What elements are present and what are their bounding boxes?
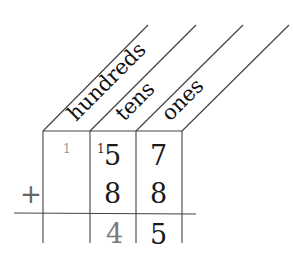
carry-hundreds: 1 bbox=[63, 142, 71, 156]
result-tens: 4 bbox=[106, 218, 123, 249]
diagonal-line-4 bbox=[182, 25, 289, 131]
sum-rule bbox=[14, 213, 196, 214]
row1-tens: 5 bbox=[104, 140, 121, 171]
row2-ones: 8 bbox=[150, 178, 167, 209]
row1-ones: 7 bbox=[150, 140, 167, 171]
row2-tens: 8 bbox=[104, 178, 121, 209]
header-ones: ones bbox=[157, 74, 209, 126]
place-value-diagram: hundreds tens ones 1 1 5 7 + 8 8 4 5 bbox=[0, 0, 293, 269]
result-ones: 5 bbox=[150, 219, 167, 250]
plus-sign: + bbox=[20, 179, 42, 209]
